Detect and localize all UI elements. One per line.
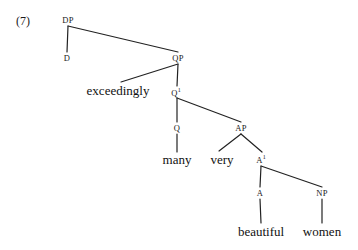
node-label: beautiful xyxy=(238,224,284,239)
node-label: Q xyxy=(174,123,180,133)
tree-terminal-beautiful: beautiful xyxy=(238,225,284,238)
tree-terminal-many: many xyxy=(163,153,192,166)
syntax-tree-figure: (7) DPDQPexceedinglyQ1QAPmanyveryA1ANPbe… xyxy=(0,0,358,250)
node-label: DP xyxy=(62,15,73,25)
tree-node-q: Q xyxy=(174,124,180,133)
node-label: exceedingly xyxy=(87,83,150,98)
tree-node-abar: A1 xyxy=(256,154,265,164)
tree-node-a: A xyxy=(257,189,263,198)
node-label: women xyxy=(303,224,341,239)
node-label: D xyxy=(64,53,70,63)
tree-edge-ap-abar xyxy=(241,134,262,152)
tree-node-qp: QP xyxy=(172,54,183,63)
tree-terminal-very: very xyxy=(210,153,233,166)
tree-node-qbar: Q1 xyxy=(171,87,180,97)
tree-edge-abar-np xyxy=(261,166,322,187)
tree-edge-dp-d xyxy=(67,26,68,52)
bar-level-marker: 1 xyxy=(263,154,266,160)
tree-edge-dp-qp xyxy=(68,26,178,52)
tree-edge-qp-qbar xyxy=(177,64,178,86)
node-label: AP xyxy=(235,123,246,133)
node-label: very xyxy=(210,152,233,167)
node-label: many xyxy=(163,152,192,167)
bar-level-marker: 1 xyxy=(178,87,181,93)
tree-edge-qbar-ap xyxy=(177,98,241,122)
node-label: A xyxy=(257,188,263,198)
tree-node-dp: DP xyxy=(62,16,73,25)
tree-terminal-exceedingly: exceedingly xyxy=(87,84,150,97)
node-label: QP xyxy=(172,53,183,63)
tree-terminal-women: women xyxy=(303,225,341,238)
tree-edge-qp-exceedingly xyxy=(121,64,178,82)
tree-node-ap: AP xyxy=(235,124,246,133)
tree-edge-abar-a xyxy=(260,166,261,187)
tree-edge-a-beautiful xyxy=(260,199,261,223)
tree-edge-ap-very xyxy=(219,134,241,151)
node-label: NP xyxy=(316,188,327,198)
tree-node-d: D xyxy=(64,54,70,63)
tree-node-np: NP xyxy=(316,189,327,198)
